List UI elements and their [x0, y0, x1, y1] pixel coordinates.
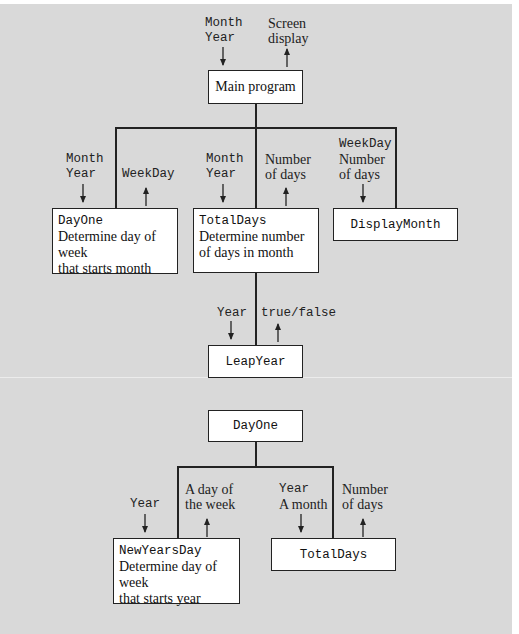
label-the-week: the week [185, 497, 235, 512]
totaldays-bottom-box: TotalDays [271, 538, 396, 571]
arrow-up-icon [281, 186, 291, 206]
root-vertical-connector [255, 441, 257, 467]
label-year: Year [217, 306, 247, 321]
connector-totaldays [332, 466, 334, 539]
module-name: NewYearsDay [119, 543, 239, 559]
module-desc: Determine day of week [58, 229, 177, 261]
label-number: Number [342, 482, 388, 497]
bottom-bus-line [177, 466, 334, 468]
module-name: LeapYear [225, 355, 285, 369]
totaldays-box: TotalDays Determine number of days in mo… [193, 208, 319, 273]
label-number: Number [265, 152, 311, 167]
main-program-label: Main program [215, 79, 295, 95]
totaldays-bottom-output-labels: Number of days [342, 482, 388, 512]
arrow-down-icon [296, 514, 306, 534]
arrow-down-icon [358, 184, 368, 204]
label-of-days: of days [339, 167, 392, 182]
label-a-month: A month [279, 497, 328, 512]
label-month: Month [206, 152, 244, 167]
arrow-up-icon [273, 322, 283, 342]
dayone-root-box: DayOne [208, 410, 303, 442]
main-output-labels: Screen display [268, 16, 308, 46]
connector-dayone [115, 127, 117, 209]
displaymonth-input-labels: WeekDay Number of days [339, 137, 392, 182]
label-year: Year [206, 167, 244, 182]
module-desc: Determine day of week [119, 559, 239, 591]
main-program-box: Main program [208, 70, 303, 104]
module-desc: that starts year [119, 591, 239, 607]
label-display: display [268, 31, 308, 46]
arrow-down-icon [226, 321, 236, 341]
arrow-up-icon [282, 47, 292, 67]
label-month: Month [205, 16, 243, 31]
label-month: Month [66, 152, 104, 167]
main-input-labels: Month Year [205, 16, 243, 46]
label-a-day-of: A day of [185, 482, 235, 497]
label-year: Year [205, 31, 243, 46]
label-screen: Screen [268, 16, 308, 31]
arrow-down-icon [78, 184, 88, 204]
arrow-down-icon [140, 514, 150, 534]
module-name: DayOne [233, 419, 278, 433]
arrow-down-icon [218, 184, 228, 204]
label-number: Number [339, 152, 392, 167]
arrow-up-icon [202, 517, 212, 537]
module-desc: that starts month [58, 261, 177, 277]
displaymonth-box: DisplayMonth [333, 208, 458, 241]
connector-newyearsday [177, 466, 179, 539]
arrow-down-icon [218, 47, 228, 67]
module-name: TotalDays [300, 548, 368, 562]
top-bus-line [115, 127, 396, 129]
label-year: Year [279, 482, 328, 497]
dayone-input-labels: Month Year [66, 152, 104, 182]
newyearsday-output-labels: A day of the week [185, 482, 235, 512]
totaldays-bottom-input-labels: Year A month [279, 482, 328, 512]
arrow-up-icon [358, 517, 368, 537]
label-weekday: WeekDay [339, 137, 392, 152]
module-name: DayOne [58, 213, 177, 229]
label-year: Year [130, 497, 160, 512]
module-name: TotalDays [199, 213, 318, 229]
label-year: Year [66, 167, 104, 182]
totaldays-output-labels: Number of days [265, 152, 311, 182]
label-weekday: WeekDay [122, 167, 175, 182]
label-of-days: of days [265, 167, 311, 182]
leapyear-box: LeapYear [208, 345, 303, 378]
totaldays-input-labels: Month Year [206, 152, 244, 182]
connector-displaymonth [395, 127, 397, 209]
label-true-false: true/false [261, 306, 336, 321]
arrow-up-icon [141, 186, 151, 206]
module-desc: of days in month [199, 245, 318, 261]
label-of-days: of days [342, 497, 388, 512]
module-desc: Determine number [199, 229, 318, 245]
newyearsday-box: NewYearsDay Determine day of week that s… [113, 538, 240, 604]
dayone-box: DayOne Determine day of week that starts… [52, 208, 178, 274]
module-name: DisplayMonth [350, 218, 440, 232]
